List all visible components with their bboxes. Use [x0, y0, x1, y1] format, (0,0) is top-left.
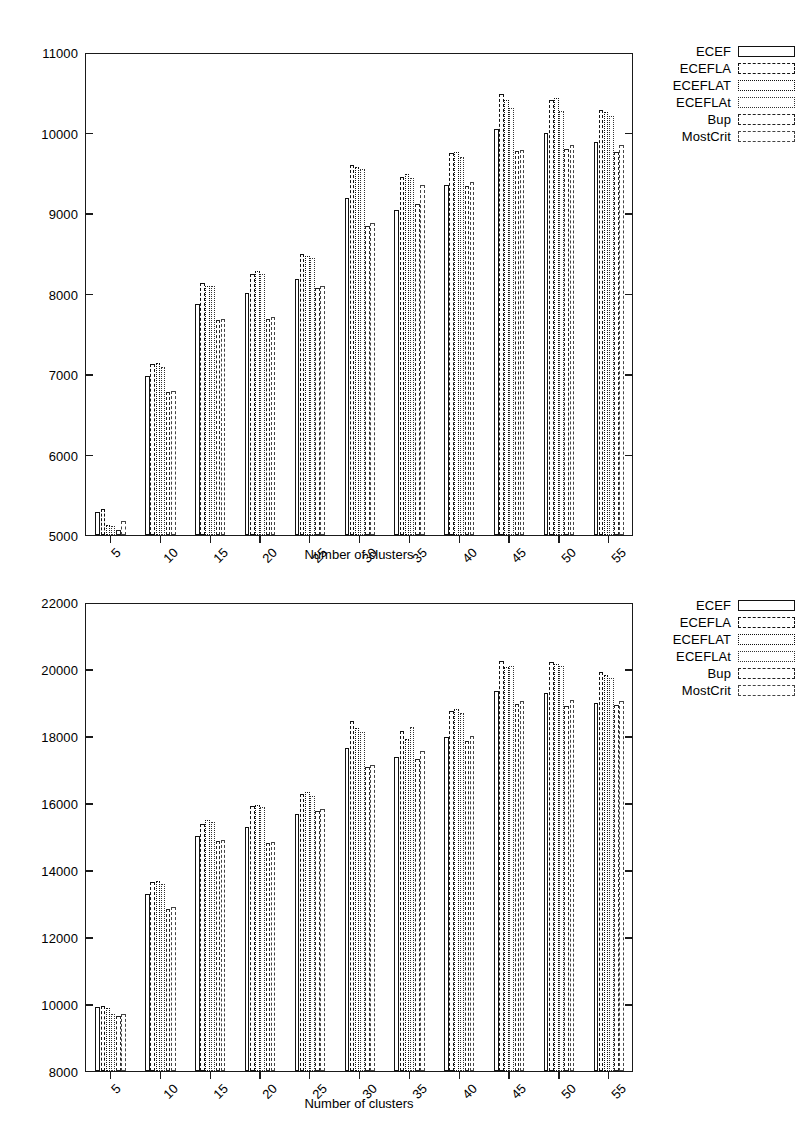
bar — [150, 364, 155, 535]
bar — [166, 909, 171, 1071]
legend-label: ECEFLA — [680, 615, 738, 630]
bar — [619, 701, 624, 1071]
legend-key-eceflat — [738, 80, 795, 91]
legend-item: ECEF — [630, 43, 795, 59]
legend-label: ECEFLAT — [673, 632, 738, 647]
ytick-mark — [85, 1004, 93, 1005]
bar — [156, 363, 161, 535]
bar — [106, 525, 111, 535]
bar — [171, 391, 176, 535]
bar — [245, 293, 250, 535]
bar — [509, 666, 514, 1071]
legend-key-mostcrit — [738, 685, 795, 696]
bar — [150, 882, 155, 1071]
ytick-label: 5000 — [0, 529, 78, 544]
bar — [614, 705, 619, 1071]
legend-label: ECEFLA — [680, 61, 738, 76]
legend-item: ECEFLAt — [630, 648, 795, 664]
ytick-mark — [85, 669, 93, 670]
bar — [599, 110, 604, 535]
bar — [564, 706, 569, 1071]
bar — [460, 157, 465, 535]
ytick-mark — [85, 294, 93, 295]
bar — [305, 256, 310, 535]
ytick-mark — [625, 294, 633, 295]
ytick-mark — [85, 870, 93, 871]
bar — [121, 521, 126, 535]
bar — [200, 283, 205, 535]
legend-bottom: ECEF ECEFLA ECEFLAT ECEFLAt Bup MostCrit — [630, 597, 795, 699]
bar — [470, 182, 475, 535]
bar — [211, 286, 216, 535]
bar — [161, 884, 166, 1071]
xtick-mark — [309, 536, 310, 543]
legend-key-ecef — [738, 46, 795, 57]
bar — [200, 824, 205, 1072]
ytick-label: 10000 — [0, 126, 78, 141]
bar — [515, 704, 520, 1071]
bar — [295, 814, 300, 1071]
bar — [564, 149, 569, 535]
bar — [370, 765, 375, 1071]
ytick-mark — [625, 870, 633, 871]
bar — [266, 843, 271, 1071]
xtick-mark — [259, 536, 260, 543]
ytick-label: 8000 — [0, 1065, 78, 1080]
xtick-mark — [508, 536, 509, 543]
legend-item: Bup — [630, 665, 795, 681]
bar — [101, 1006, 106, 1071]
bar — [145, 376, 150, 535]
ytick-label: 22000 — [0, 596, 78, 611]
bar — [106, 1008, 111, 1071]
bar — [594, 703, 599, 1071]
bar — [544, 133, 549, 535]
bar — [559, 666, 564, 1071]
bar — [554, 664, 559, 1071]
ytick-mark — [85, 133, 93, 134]
legend-item: ECEFLAT — [630, 631, 795, 647]
bar — [360, 169, 365, 535]
bar — [205, 820, 210, 1071]
legend-key-ecefla — [738, 617, 795, 628]
legend-key-ecefla — [738, 63, 795, 74]
bar — [604, 112, 609, 535]
bar — [300, 254, 305, 535]
xtick-mark — [558, 1072, 559, 1079]
legend-key-eceflat-lower — [738, 97, 795, 108]
bar — [420, 185, 425, 535]
bar — [95, 512, 100, 535]
bar — [121, 1014, 126, 1071]
ytick-mark — [625, 803, 633, 804]
bar — [355, 167, 360, 535]
bar — [509, 108, 514, 535]
bar — [410, 727, 415, 1071]
bar — [470, 736, 475, 1071]
bar — [195, 836, 200, 1072]
bar — [166, 392, 171, 535]
bar — [255, 271, 260, 535]
bar — [250, 806, 255, 1071]
bar — [260, 807, 265, 1071]
bar — [216, 320, 221, 535]
legend-item: Bup — [630, 111, 795, 127]
legend-item: ECEFLA — [630, 60, 795, 76]
bar — [161, 367, 166, 535]
bars-layer-top — [86, 54, 632, 535]
bar — [415, 759, 420, 1071]
ytick-label: 7000 — [0, 368, 78, 383]
ytick-mark — [625, 455, 633, 456]
figure-page: 5000600070008000900010000110005101520253… — [0, 0, 797, 1145]
bar — [370, 223, 375, 535]
ytick-label: 6000 — [0, 448, 78, 463]
legend-label: ECEFLAt — [676, 649, 738, 664]
xtick-mark — [259, 1072, 260, 1079]
bar — [415, 204, 420, 535]
bar — [594, 142, 599, 535]
bar — [345, 198, 350, 536]
xtick-mark — [210, 1072, 211, 1079]
bar — [619, 145, 624, 535]
bar — [599, 672, 604, 1071]
ytick-label: 20000 — [0, 663, 78, 678]
legend-key-eceflat-lower — [738, 651, 795, 662]
bar — [614, 152, 619, 535]
